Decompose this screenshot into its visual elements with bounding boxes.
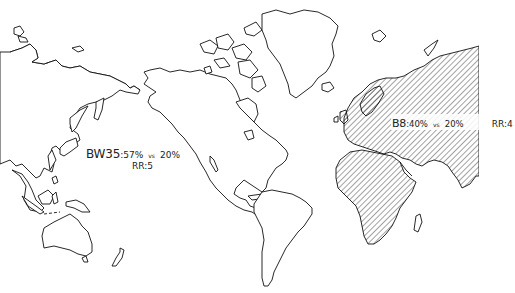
annotation-bw35: BW35:57% vs 20% RR:5 xyxy=(86,145,180,171)
annotation-rr: RR:4 xyxy=(491,120,514,129)
south-america xyxy=(254,190,312,286)
annotation-code: B8 xyxy=(392,117,406,130)
annotation-b8: B8:40% vs 20% RR:4 xyxy=(391,114,515,130)
annotation-percent-b: 20% xyxy=(445,119,464,129)
annotation-percent-a: :40% xyxy=(406,119,428,129)
annotation-code: BW35 xyxy=(86,147,120,161)
annotation-percent-b: 20% xyxy=(160,150,180,160)
greenland xyxy=(262,10,338,98)
australia xyxy=(42,214,124,266)
hatched-region-eurasia-africa xyxy=(334,30,479,244)
annotation-percent-a: :57% xyxy=(120,150,143,160)
southeast-asia xyxy=(12,170,90,214)
annotation-rr: RR:5 xyxy=(132,162,180,171)
north-america xyxy=(144,22,288,218)
annotation-vs: vs xyxy=(433,121,440,128)
annotation-vs: vs xyxy=(148,152,155,159)
